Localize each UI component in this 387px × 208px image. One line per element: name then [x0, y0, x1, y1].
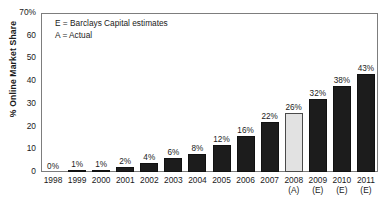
- bar-1999[interactable]: [68, 170, 86, 172]
- x-axis-labels: 1998199920002001200220032004200520062007…: [41, 175, 378, 205]
- bars-container: 0%1%1%2%4%6%8%12%16%22%26%32%38%43%: [41, 13, 378, 172]
- bar-2001[interactable]: [116, 167, 134, 172]
- bar-slot: 8%: [185, 13, 209, 172]
- bar-2007[interactable]: [261, 122, 279, 172]
- bar-slot: 16%: [234, 13, 258, 172]
- x-label-2001: 2001: [113, 175, 137, 185]
- bar-slot: 43%: [354, 13, 378, 172]
- y-tick-label: 40: [8, 76, 36, 85]
- bar-slot: 0%: [41, 13, 65, 172]
- bar-value-label: 12%: [207, 135, 237, 144]
- bar-chart: % Online Market Share 70%6050403020100 E…: [0, 0, 387, 208]
- bar-2011[interactable]: [357, 74, 375, 172]
- bar-value-label: 22%: [255, 112, 285, 121]
- x-label-year: 2011: [354, 175, 378, 185]
- bar-value-label: 26%: [279, 103, 309, 112]
- x-label-note: (E): [306, 185, 330, 196]
- y-tick-label: 20: [8, 122, 36, 131]
- y-tick-label: 30: [8, 99, 36, 108]
- x-label-year: 2002: [137, 175, 161, 185]
- x-label-year: 2001: [113, 175, 137, 185]
- x-label-2006: 2006: [234, 175, 258, 185]
- bar-slot: 2%: [113, 13, 137, 172]
- bar-slot: 1%: [89, 13, 113, 172]
- x-label-2008: 2008(A): [282, 175, 306, 196]
- x-label-2005: 2005: [210, 175, 234, 185]
- x-label-year: 2010: [330, 175, 354, 185]
- x-label-1998: 1998: [41, 175, 65, 185]
- bar-2002[interactable]: [140, 163, 158, 172]
- x-label-year: 1999: [65, 175, 89, 185]
- bar-2003[interactable]: [164, 158, 182, 172]
- x-label-year: 2009: [306, 175, 330, 185]
- bar-value-label: 16%: [231, 126, 261, 135]
- y-tick-label: 60: [8, 31, 36, 40]
- x-label-2003: 2003: [161, 175, 185, 185]
- x-label-year: 2004: [185, 175, 209, 185]
- bar-2009[interactable]: [309, 99, 327, 172]
- bar-slot: 38%: [330, 13, 354, 172]
- x-label-note: (A): [282, 185, 306, 196]
- bar-slot: 1%: [65, 13, 89, 172]
- bar-2006[interactable]: [237, 136, 255, 172]
- x-label-year: 2008: [282, 175, 306, 185]
- x-label-year: 2006: [234, 175, 258, 185]
- x-label-year: 2007: [258, 175, 282, 185]
- x-label-2009: 2009(E): [306, 175, 330, 196]
- x-label-2004: 2004: [185, 175, 209, 185]
- x-label-2007: 2007: [258, 175, 282, 185]
- x-label-2002: 2002: [137, 175, 161, 185]
- x-label-2011: 2011(E): [354, 175, 378, 196]
- bar-2004[interactable]: [188, 154, 206, 172]
- bar-2000[interactable]: [92, 170, 110, 172]
- x-label-year: 2005: [210, 175, 234, 185]
- bar-value-label: 32%: [303, 89, 333, 98]
- y-tick-label: 0: [8, 167, 36, 176]
- bar-slot: 32%: [306, 13, 330, 172]
- bar-2010[interactable]: [333, 86, 351, 172]
- bar-value-label: 38%: [327, 76, 357, 85]
- bar-2008[interactable]: [285, 113, 303, 172]
- x-label-year: 2000: [89, 175, 113, 185]
- x-label-year: 2003: [161, 175, 185, 185]
- y-tick-label: 10: [8, 144, 36, 153]
- bar-2005[interactable]: [213, 145, 231, 172]
- bar-slot: 12%: [210, 13, 234, 172]
- x-label-2010: 2010(E): [330, 175, 354, 196]
- bar-value-label: 8%: [182, 144, 212, 153]
- bar-slot: 22%: [258, 13, 282, 172]
- bar-value-label: 43%: [351, 64, 381, 73]
- x-label-note: (E): [354, 185, 378, 196]
- x-label-1999: 1999: [65, 175, 89, 185]
- y-tick-label: 70%: [8, 8, 36, 17]
- y-tick-label: 50: [8, 53, 36, 62]
- x-label-year: 1998: [41, 175, 65, 185]
- x-label-note: (E): [330, 185, 354, 196]
- x-label-2000: 2000: [89, 175, 113, 185]
